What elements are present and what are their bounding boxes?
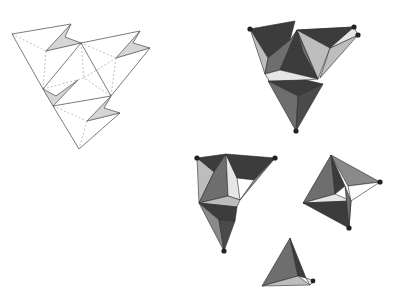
flap-upper-left <box>46 24 81 51</box>
vertex-dot <box>247 26 252 31</box>
vertex-dot <box>311 279 316 284</box>
figure-canvas <box>0 0 393 299</box>
partial-fold-b <box>303 155 383 231</box>
vertex-dot <box>377 179 382 184</box>
vertex-dot <box>351 24 356 29</box>
flap-middle-left <box>43 80 78 106</box>
single-tetrahedron <box>262 238 315 286</box>
folded-assembly <box>247 21 360 134</box>
vertex-dot <box>355 32 360 37</box>
vertex-dot <box>194 155 199 160</box>
vertex-dot <box>293 128 298 133</box>
vertex-dot <box>346 225 351 230</box>
partial-fold-a <box>194 154 277 254</box>
vertex-dot <box>221 248 226 253</box>
vertex-dot <box>272 155 277 160</box>
flat-net <box>12 24 150 149</box>
